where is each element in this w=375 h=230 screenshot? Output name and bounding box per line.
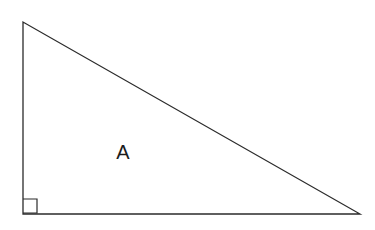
figure-canvas: A xyxy=(0,0,375,230)
interior-area-label: A xyxy=(116,141,130,163)
triangle-diagram: A xyxy=(0,0,375,230)
